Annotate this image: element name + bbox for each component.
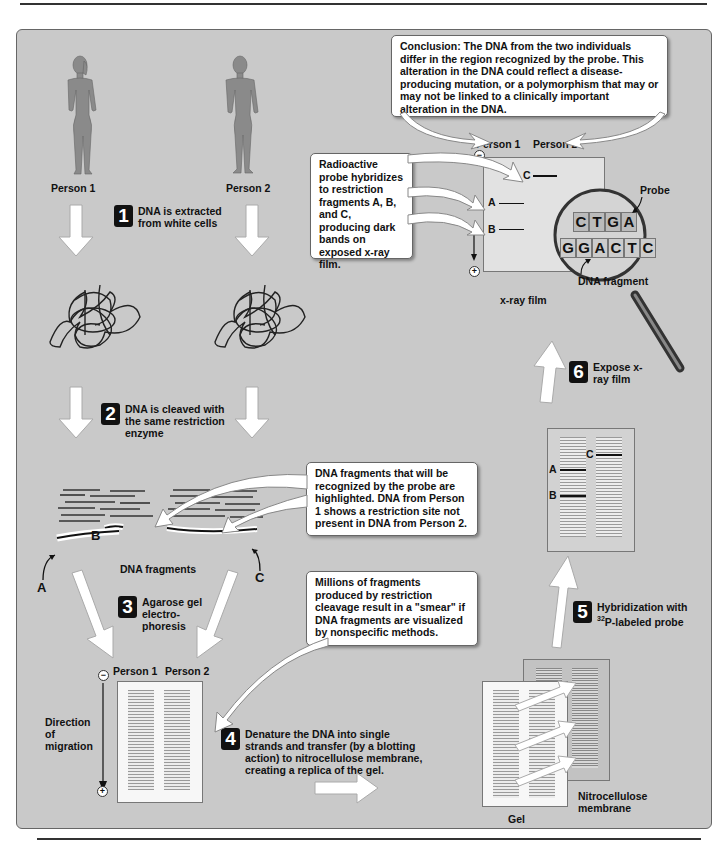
step-5-prefix: Hybridization with	[597, 601, 687, 613]
positive-electrode-icon: +	[97, 786, 108, 797]
conclusion-callout: Conclusion: The DNA from the two individ…	[391, 35, 668, 117]
gel-label: Gel	[508, 813, 525, 825]
step-1: 1 DNA is extracted from white cells	[114, 205, 228, 229]
base: C	[608, 238, 624, 258]
step-badge: 2	[101, 403, 120, 425]
hybridized-membrane	[547, 428, 635, 552]
base: G	[576, 238, 592, 258]
right-arrow-icon	[315, 772, 380, 804]
down-arrow-icon	[234, 387, 270, 439]
gel-lane-person1	[128, 690, 154, 790]
base: G	[560, 238, 576, 258]
band-b	[560, 495, 586, 497]
bottom-rule	[37, 838, 701, 840]
step-badge: 3	[118, 596, 137, 618]
nitrocellulose-membrane-label: Nitrocellulose membrane	[578, 790, 658, 814]
dna-tangle-icon	[45, 280, 145, 355]
person2-label: Person 2	[226, 182, 270, 194]
pointer-arrow-icon	[630, 195, 645, 215]
fragment-b-label: B	[91, 530, 100, 542]
membrane-lane-person2	[596, 437, 622, 537]
down-arrow-icon	[58, 205, 94, 257]
dna-fragment-label: DNA fragment	[578, 275, 648, 287]
base: C	[640, 238, 656, 258]
step-2: 2 DNA is cleaved with the same restricti…	[101, 403, 235, 439]
fragments-highlighted-callout: DNA fragments that will be recognized by…	[306, 462, 478, 536]
dna-tangle-icon	[210, 280, 310, 355]
fragment-c-label: C	[255, 572, 264, 584]
step-text: Agarose gel electro-phoresis	[142, 596, 204, 632]
fragment-a-label: A	[37, 582, 46, 594]
person1-figure-icon	[55, 55, 105, 175]
top-rule	[20, 3, 707, 5]
step-text: DNA is cleaved with the same restriction…	[125, 403, 235, 439]
negative-electrode-icon: −	[98, 670, 109, 681]
callout-pointer-icon	[190, 630, 330, 735]
probe-hybridizes-callout: Radioactive probe hybridizes to restrict…	[310, 153, 413, 259]
callout-pointer-icon	[408, 150, 528, 240]
base: A	[621, 212, 637, 232]
step-badge: 5	[573, 601, 592, 623]
base: T	[624, 238, 640, 258]
probe-sequence: C T G A	[573, 212, 637, 232]
person2-figure-icon	[215, 55, 265, 175]
down-arrow-icon	[234, 205, 270, 257]
band-c	[596, 454, 622, 456]
base: C	[573, 212, 589, 232]
step-3: 3 Agarose gel electro-phoresis	[118, 596, 204, 632]
base: G	[605, 212, 621, 232]
step-text: Hybridization with 32P-labeled probe	[597, 601, 697, 628]
base: T	[589, 212, 605, 232]
smear-callout: Millions of fragments produced by restri…	[306, 571, 478, 646]
membrane-a-label: A	[549, 463, 557, 475]
pointer-arrow-icon	[578, 256, 593, 276]
step-badge: 1	[114, 205, 133, 227]
fragment-sequence: G G A C T C	[560, 238, 656, 258]
migration-arrow-icon	[98, 683, 108, 793]
pointer-arrow-icon	[38, 548, 58, 583]
step-text: Denature the DNA into single strands and…	[245, 728, 430, 776]
transfer-arrows-icon	[510, 670, 580, 800]
base: A	[592, 238, 608, 258]
callout-pointer-icon	[135, 470, 310, 540]
step-5-superscript: 32	[597, 615, 605, 622]
gel-person1-label: Person 1	[113, 665, 157, 677]
positive-electrode-icon: +	[469, 266, 480, 277]
step-5: 5 Hybridization with 32P-labeled probe	[573, 601, 697, 628]
gel-lane-person2	[164, 690, 190, 790]
xray-film-label: x-ray film	[500, 294, 547, 306]
membrane-c-label: C	[586, 448, 594, 460]
person1-label: Person 1	[51, 182, 95, 194]
band-a	[560, 469, 586, 471]
down-arrow-icon	[58, 387, 94, 439]
direction-of-migration-label: Direction of migration	[45, 716, 95, 752]
step-4: 4 Denature the DNA into single strands a…	[221, 728, 430, 776]
pointer-arrow-icon	[248, 543, 268, 573]
step-5-main: P-labeled probe	[605, 616, 684, 628]
diagonal-arrow-icon	[70, 570, 120, 665]
membrane-b-label: B	[549, 489, 557, 501]
membrane-lane-person1	[560, 437, 586, 537]
step-text: DNA is extracted from white cells	[138, 205, 228, 229]
xray-band-c	[533, 175, 557, 177]
callout-pointer-icon	[400, 110, 670, 150]
dna-fragments-label: DNA fragments	[120, 563, 196, 575]
